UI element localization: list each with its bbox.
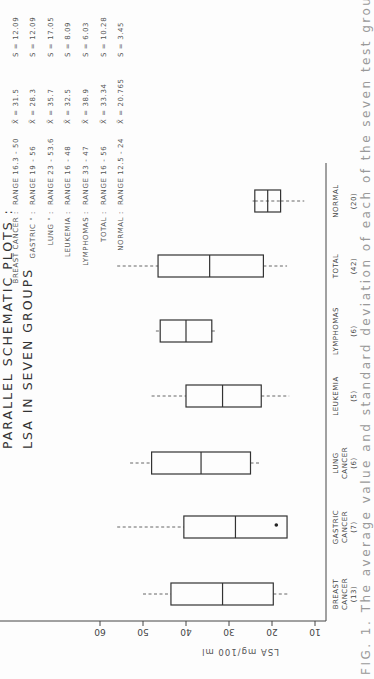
stats-range: RANGE 33 - 47: [82, 146, 90, 205]
category-label: NORMAL(20): [332, 184, 358, 217]
tick-label: 30: [223, 627, 235, 637]
box-total: [117, 255, 287, 277]
tick-label: 20: [266, 627, 278, 637]
category-line2: CANCER: [341, 578, 349, 610]
stats-group: LUNG " :: [47, 211, 55, 245]
stats-sd: S = 10.28: [100, 17, 108, 57]
tick-label: 40: [180, 627, 192, 637]
stats-range: RANGE 23 - 53.6: [47, 138, 55, 205]
category-line2: CANCER: [341, 511, 349, 543]
value-axis-ticks: 605040302010: [94, 621, 321, 637]
category-label: TOTAL(42): [332, 254, 358, 280]
box-breast-cancer: [143, 583, 289, 605]
stats-range: RANGE 19 - 56: [29, 146, 37, 205]
stats-mean: X̄ = 35.7: [46, 89, 55, 125]
stats-group: NORMAL :: [117, 211, 125, 251]
category-line1: LEUKEMIA: [332, 376, 340, 415]
category-line1: LYMPHOMAS: [332, 307, 340, 355]
stats-group: GASTRIC " :: [29, 211, 37, 258]
stats-sd: S = 6.03: [82, 22, 90, 57]
stats-range: RANGE 16 - 48: [64, 146, 72, 205]
tick-label: 60: [94, 627, 106, 637]
category-label: LUNGCANCER(6): [332, 447, 358, 479]
figure-caption: FIG. 1. The average value and standard d…: [359, 0, 373, 675]
stats-row: GASTRIC " :RANGE 19 - 56X̄ = 28.3S = 12.…: [28, 17, 37, 259]
category-n: (13): [350, 586, 358, 602]
category-label: BREASTCANCER(13): [332, 578, 358, 610]
stats-group: LEUKEMIA :: [64, 211, 72, 257]
category-label: LEUKEMIA(5): [332, 376, 358, 415]
stats-row: TOTAL :RANGE 16 - 56X̄ = 33.34S = 10.28: [99, 17, 108, 243]
stats-mean: X̄ = 38.9: [81, 89, 90, 125]
category-labels: BREASTCANCER(13)GASTRICCANCER(7)LUNGCANC…: [332, 184, 358, 610]
boxplot-figure: PARALLEL SCHEMATIC PLOTS : LSA IN SEVEN …: [0, 0, 374, 679]
stats-range: RANGE 12.5 - 24: [117, 138, 125, 205]
figure-title-line2: LSA IN SEVEN GROUPS: [20, 268, 35, 449]
stats-group: BREAST CANCER :: [12, 211, 20, 284]
category-line1: TOTAL: [332, 254, 340, 280]
stats-mean: X̄ = 20.765: [116, 78, 125, 124]
category-line1: NORMAL: [332, 184, 340, 217]
scanned-figure-page: PARALLEL SCHEMATIC PLOTS : LSA IN SEVEN …: [0, 0, 374, 679]
category-n: (20): [350, 193, 358, 209]
stats-row: LUNG " :RANGE 23 - 53.6X̄ = 35.7S = 17.0…: [46, 17, 55, 245]
stats-row: NORMAL :RANGE 12.5 - 24X̄ = 20.765S = 3.…: [116, 22, 125, 251]
stats-mean: X̄ = 28.3: [28, 89, 37, 125]
category-line1: LUNG: [332, 452, 340, 473]
box-leukemia: [152, 385, 290, 407]
box-lung-cancer: [130, 452, 261, 474]
category-n: (5): [350, 390, 358, 401]
tick-label: 10: [309, 627, 321, 637]
category-line1: GASTRIC: [332, 510, 340, 544]
stats-sd: S = 8.09: [64, 22, 72, 57]
category-label: LYMPHOMAS(6): [332, 307, 358, 355]
stats-mean: X̄ = 32.5: [63, 89, 72, 125]
iqr-box: [186, 385, 261, 407]
category-label: GASTRICCANCER(7): [332, 510, 358, 544]
stats-mean: X̄ = 33.34: [99, 83, 108, 124]
outlier-point: [275, 523, 279, 527]
category-n: (7): [350, 521, 358, 532]
iqr-box: [158, 255, 263, 277]
stats-sd: S = 12.09: [29, 17, 37, 57]
category-line2: CANCER: [341, 447, 349, 479]
box-lymphomas: [156, 320, 216, 342]
rotated-figure: PARALLEL SCHEMATIC PLOTS : LSA IN SEVEN …: [0, 0, 374, 679]
stats-row: LYMPHOMAS :RANGE 33 - 47X̄ = 38.9S = 6.0…: [81, 22, 90, 266]
stats-mean: X̄ = 31.5: [11, 89, 20, 125]
stats-sd: S = 17.05: [47, 17, 55, 57]
stats-range: RANGE 16 - 56: [100, 146, 108, 205]
summary-stats-table: BREAST CANCER :RANGE 16.3 - 50X̄ = 31.5S…: [11, 17, 125, 284]
stats-sd: S = 12.09: [12, 17, 20, 57]
stats-sd: S = 3.45: [117, 22, 125, 57]
stats-group: LYMPHOMAS :: [82, 211, 90, 266]
category-n: (6): [350, 457, 358, 468]
boxplot-series: [117, 190, 304, 605]
stats-row: LEUKEMIA :RANGE 16 - 48X̄ = 32.5S = 8.09: [63, 22, 72, 257]
box-normal: [253, 190, 305, 212]
value-axis-label: LSA mg/100 ml: [201, 647, 279, 657]
tick-label: 50: [137, 627, 149, 637]
category-n: (42): [350, 258, 358, 274]
category-line1: BREAST: [332, 578, 340, 609]
category-n: (6): [350, 325, 358, 336]
stats-range: RANGE 16.3 - 50: [12, 138, 20, 205]
stats-group: TOTAL :: [100, 211, 108, 243]
box-gastric-cancer: [117, 516, 287, 538]
stats-row: BREAST CANCER :RANGE 16.3 - 50X̄ = 31.5S…: [11, 17, 20, 284]
